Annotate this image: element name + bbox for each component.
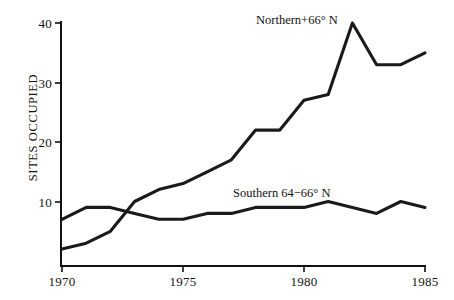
y-tick-label-40: 40 xyxy=(20,16,52,32)
line-chart-canvas xyxy=(0,0,454,300)
series-line-southern xyxy=(62,202,425,220)
x-tick-label-1975: 1975 xyxy=(157,274,209,290)
y-tick-label-20: 20 xyxy=(20,135,52,151)
chart-figure: SITES OCCUPIED 10 20 30 40 1970 1975 198… xyxy=(0,0,454,300)
y-tick-label-30: 30 xyxy=(20,76,52,92)
x-tick-label-1985: 1985 xyxy=(399,274,451,290)
series-label-northern: Northern+66° N xyxy=(256,13,338,28)
x-tick-label-1970: 1970 xyxy=(36,274,88,290)
series-line-northern xyxy=(62,23,425,249)
series-label-southern: Southern 64−66° N xyxy=(233,186,330,201)
y-axis-title: SITES OCCUPIED xyxy=(26,43,41,213)
y-tick-label-10: 10 xyxy=(20,195,52,211)
x-tick-label-1980: 1980 xyxy=(278,274,330,290)
